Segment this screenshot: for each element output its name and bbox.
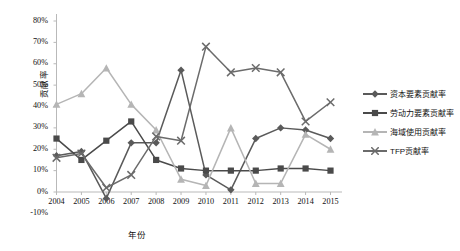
legend-label: 劳动力要素贡献率 xyxy=(387,107,454,118)
legend-item-1[interactable]: 资本要素贡献率 xyxy=(363,84,460,103)
chart-figure: 贡献率 年份 80%70%60%50%40%30%20%10%0%-10% 20… xyxy=(0,0,460,251)
data-point-marker xyxy=(128,139,135,146)
chart-legend: 资本要素贡献率劳动力要素贡献率海域使用贡献率TFP贡献率 xyxy=(363,84,460,160)
legend-label: 海域使用贡献率 xyxy=(387,126,446,137)
data-point-marker xyxy=(53,135,59,141)
data-point-marker xyxy=(53,100,61,107)
data-point-marker xyxy=(371,147,379,155)
data-point-marker xyxy=(227,124,235,131)
data-point-marker xyxy=(327,145,335,152)
data-point-marker xyxy=(371,128,379,135)
legend-marker-diamond-icon xyxy=(363,88,387,100)
data-point-marker xyxy=(203,168,209,174)
data-point-marker xyxy=(228,168,234,174)
data-point-marker xyxy=(371,90,378,97)
legend-item-2[interactable]: 劳动力要素贡献率 xyxy=(363,103,460,122)
data-point-marker xyxy=(372,109,378,115)
legend-item-4[interactable]: TFP贡献率 xyxy=(363,141,460,160)
legend-item-3[interactable]: 海域使用贡献率 xyxy=(363,122,460,141)
data-point-marker xyxy=(127,171,135,179)
data-point-marker xyxy=(102,64,110,71)
series-3 xyxy=(53,64,335,189)
series-2 xyxy=(53,118,333,173)
data-point-marker xyxy=(302,165,308,171)
data-point-marker xyxy=(103,184,111,192)
data-point-marker xyxy=(327,98,335,106)
data-point-marker xyxy=(178,165,184,171)
data-point-marker xyxy=(253,168,259,174)
data-point-marker xyxy=(153,157,159,163)
legend-marker-cross-icon xyxy=(363,145,387,157)
data-point-marker xyxy=(177,175,185,182)
data-point-marker xyxy=(327,168,333,174)
data-point-marker xyxy=(103,138,109,144)
data-point-marker xyxy=(177,66,184,73)
legend-label: TFP贡献率 xyxy=(387,145,429,156)
legend-marker-square-icon xyxy=(363,107,387,119)
data-point-marker xyxy=(327,135,334,142)
data-point-marker xyxy=(252,135,259,142)
data-point-marker xyxy=(278,165,284,171)
legend-marker-triangle-icon xyxy=(363,126,387,138)
data-point-marker xyxy=(277,124,284,131)
data-point-marker xyxy=(128,118,134,124)
data-point-marker xyxy=(302,118,310,126)
data-point-marker xyxy=(103,195,110,202)
legend-label: 资本要素贡献率 xyxy=(387,88,446,99)
